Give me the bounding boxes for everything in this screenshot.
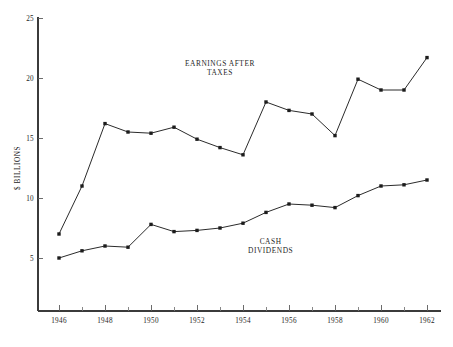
data-point-marker: [149, 223, 152, 226]
y-tick-label: 25: [26, 15, 34, 23]
data-point-marker: [126, 246, 129, 249]
series-path: [59, 58, 427, 234]
series-path: [59, 180, 427, 258]
data-point-marker: [149, 132, 152, 135]
data-point-marker: [356, 78, 359, 81]
data-point-marker: [425, 56, 428, 59]
data-point-marker: [57, 232, 60, 235]
dividends-annotation-line2: DIVIDENDS: [248, 246, 293, 255]
annotation-dividends: CASH DIVIDENDS: [248, 237, 293, 255]
data-point-marker: [57, 256, 60, 259]
y-axis-title: $ BILLIONS: [14, 146, 22, 190]
data-point-marker: [195, 138, 198, 141]
y-tick-label: 5: [30, 255, 34, 263]
x-tick-label: 1950: [143, 317, 159, 325]
x-tick-label: 1956: [281, 317, 297, 325]
data-point-marker: [218, 146, 221, 149]
y-tick-label: 10: [26, 195, 34, 203]
data-point-marker: [333, 206, 336, 209]
data-point-marker: [379, 184, 382, 187]
data-point-marker: [287, 109, 290, 112]
chart-container: 510152025 194619481950195219541956195819…: [0, 0, 453, 347]
data-point-marker: [172, 230, 175, 233]
x-tick-label: 1954: [235, 317, 251, 325]
x-axis-ticks: [59, 305, 427, 311]
data-point-marker: [356, 194, 359, 197]
data-point-marker: [333, 134, 336, 137]
data-point-marker: [195, 229, 198, 232]
x-axis-tick-labels: 194619481950195219541956195819601962: [51, 317, 435, 325]
data-point-marker: [172, 126, 175, 129]
dividends-annotation-line1: CASH: [260, 237, 282, 246]
line-chart: 510152025 194619481950195219541956195819…: [0, 0, 453, 347]
data-point-marker: [80, 184, 83, 187]
earnings-annotation-line1: EARNINGS AFTER: [185, 59, 255, 68]
data-series: [57, 56, 428, 260]
x-tick-label: 1952: [189, 317, 205, 325]
data-point-marker: [379, 88, 382, 91]
data-point-marker: [287, 202, 290, 205]
data-point-marker: [241, 222, 244, 225]
x-tick-label: 1958: [327, 317, 343, 325]
earnings-annotation-line2: TAXES: [207, 68, 233, 77]
data-point-marker: [264, 100, 267, 103]
data-point-marker: [126, 130, 129, 133]
data-point-marker: [103, 244, 106, 247]
data-point-marker: [103, 122, 106, 125]
data-point-marker: [402, 88, 405, 91]
data-point-marker: [310, 204, 313, 207]
data-point-marker: [402, 183, 405, 186]
data-point-marker: [80, 249, 83, 252]
data-point-marker: [310, 112, 313, 115]
data-point-marker: [218, 226, 221, 229]
series-earnings-after-taxes: [57, 56, 428, 236]
x-tick-label: 1946: [51, 317, 67, 325]
data-point-marker: [425, 178, 428, 181]
y-axis-ticks: [38, 18, 43, 258]
data-point-marker: [264, 211, 267, 214]
y-axis-tick-labels: 510152025: [26, 15, 34, 263]
data-point-marker: [241, 153, 244, 156]
x-tick-label: 1960: [373, 317, 389, 325]
y-tick-label: 15: [26, 135, 34, 143]
y-tick-label: 20: [26, 75, 34, 83]
x-tick-label: 1948: [97, 317, 113, 325]
x-tick-label: 1962: [419, 317, 435, 325]
series-cash-dividends: [57, 178, 428, 259]
annotation-earnings: EARNINGS AFTER TAXES: [185, 59, 255, 77]
